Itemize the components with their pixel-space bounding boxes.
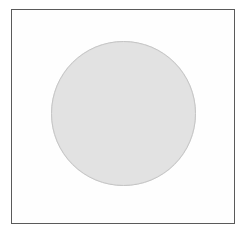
figure-canvas: A light gray filled circle centered insi…	[0, 0, 244, 238]
circle-shape	[51, 41, 196, 186]
frame-border-rectangle	[11, 9, 235, 224]
figure-alt-text: A light gray filled circle centered insi…	[0, 0, 1, 1]
